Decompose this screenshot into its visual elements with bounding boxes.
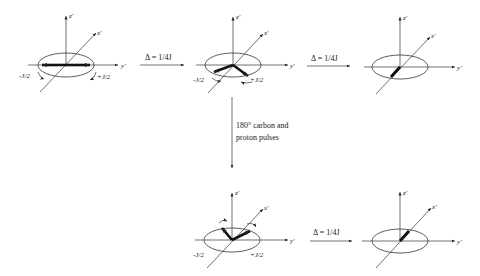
panel-2: z' x' y' -J/2 +J/2	[193, 13, 295, 93]
panel-5: z' x' y'	[362, 189, 462, 268]
rotation-arrow-right	[247, 223, 256, 227]
z-axis-label: z'	[68, 12, 74, 20]
y-axis-label: y'	[289, 62, 295, 70]
x-axis-label: x'	[263, 204, 269, 212]
transition-3: Δ = 1/4J	[310, 228, 352, 241]
delay-label: Δ = 1/4J	[145, 53, 172, 62]
pulse-label-line2: proton pulses	[236, 133, 279, 142]
x-axis-label: x'	[431, 203, 437, 211]
transition-1: Δ = 1/4J	[140, 53, 184, 65]
plus-j-label: +J/2	[97, 73, 111, 81]
x-axis-label: x'	[96, 29, 102, 37]
magnetization-vector-minus	[214, 65, 233, 72]
minus-j-label: -J/2	[19, 72, 30, 80]
rotation-arrow-left	[38, 72, 44, 79]
x-axis	[208, 34, 263, 93]
z-axis-label: z'	[402, 14, 408, 22]
z-axis-label: z'	[402, 189, 408, 197]
x-axis	[376, 37, 430, 94]
z-axis-label: z'	[234, 189, 240, 197]
panel-3: z' x' y'	[364, 14, 462, 94]
transition-pulse: 180° carbon and proton pulses	[232, 97, 289, 168]
y-axis-label: y'	[289, 237, 295, 245]
magnetization-vector-plus	[233, 65, 248, 76]
z-axis-label: z'	[235, 13, 241, 21]
minus-j-label: -J/2	[193, 76, 204, 84]
delay-label: Δ = 1/4J	[313, 228, 340, 237]
panel-4: z' x' y' -J/2 +J/2	[193, 189, 295, 268]
delay-label: Δ = 1/4J	[311, 54, 338, 63]
magnetization-vector-minus	[222, 228, 232, 240]
y-axis-label: y'	[456, 64, 462, 72]
plus-j-label: +J/2	[250, 76, 264, 84]
y-axis-label: y'	[120, 62, 126, 70]
x-axis-label: x'	[263, 29, 269, 37]
vector-diagram: z' x' y' -J/2 +J/2 Δ = 1/4J z' x' y' -J/…	[0, 0, 480, 276]
y-axis-label: y'	[456, 238, 462, 246]
rotation-arrow-left	[219, 220, 227, 223]
rotation-arrow-right	[90, 72, 96, 80]
magnetization-vector-pair	[391, 67, 400, 77]
magnetization-vector-pair	[400, 231, 409, 241]
pulse-label-line1: 180° carbon and	[236, 121, 289, 130]
minus-j-label: -J/2	[193, 251, 204, 259]
transition-2: Δ = 1/4J	[307, 54, 350, 66]
plus-j-label: +J/2	[250, 251, 264, 259]
panel-1: z' x' y' -J/2 +J/2	[19, 12, 126, 92]
x-axis-label: x'	[430, 32, 436, 40]
x-axis	[40, 33, 96, 92]
